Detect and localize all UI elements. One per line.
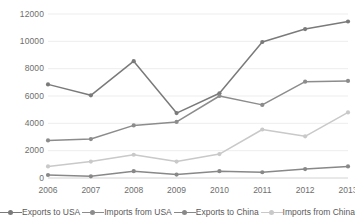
x-tick-label: 2012 <box>296 186 315 195</box>
x-tick-label: 2009 <box>167 186 186 195</box>
legend-marker-icon <box>174 208 196 217</box>
x-axis-tick-labels: 20062007200820092010201120122013 <box>0 0 355 224</box>
line-chart: 020004000600080001000012000 200620072008… <box>0 0 355 224</box>
legend-label: Imports from USA <box>104 208 172 217</box>
x-tick-label: 2008 <box>124 186 143 195</box>
legend-label: Imports from China <box>283 208 355 217</box>
x-tick-label: 2006 <box>39 186 58 195</box>
legend-item[interactable]: Exports to USA <box>0 208 80 217</box>
legend-label: Exports to China <box>196 208 259 217</box>
legend-item[interactable]: Imports from USA <box>82 208 172 217</box>
x-tick-label: 2013 <box>339 186 355 195</box>
x-tick-label: 2010 <box>210 186 229 195</box>
legend-item[interactable]: Exports to China <box>174 208 259 217</box>
chart-legend: Exports to USAImports from USAExports to… <box>0 203 355 221</box>
legend-label: Exports to USA <box>22 208 80 217</box>
legend-marker-icon <box>82 208 104 217</box>
legend-marker-icon <box>0 208 22 217</box>
x-tick-label: 2007 <box>81 186 100 195</box>
x-tick-label: 2011 <box>253 186 271 195</box>
legend-item[interactable]: Imports from China <box>261 208 355 217</box>
legend-marker-icon <box>261 208 283 217</box>
